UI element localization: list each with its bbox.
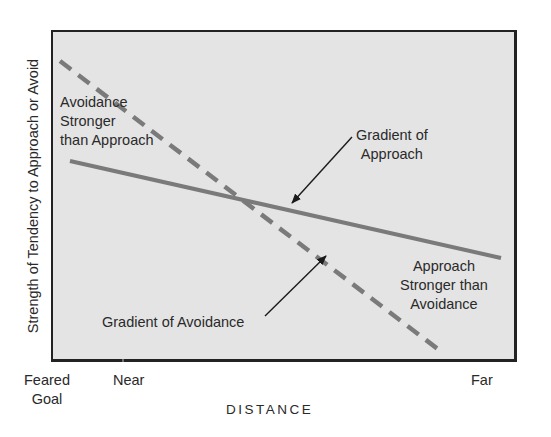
- chart-lines: [0, 0, 551, 437]
- avoidance-pointer-arrow: [265, 256, 326, 316]
- y-axis-label: Strength of Tendency to Approach or Avoi…: [25, 59, 41, 333]
- annotation-avoidance-stronger: Avoidance Stronger than Approach: [60, 93, 154, 150]
- x-axis-title: DISTANCE: [226, 402, 313, 417]
- approach-pointer-arrow: [292, 137, 352, 203]
- x-tick-near: Near: [113, 371, 144, 390]
- gradient-of-approach-line: [70, 161, 501, 258]
- annotation-approach-stronger: Approach Stronger than Avoidance: [400, 257, 488, 314]
- x-tick-far: Far: [471, 371, 493, 390]
- annotation-gradient-of-avoidance: Gradient of Avoidance: [102, 313, 244, 332]
- x-tick-feared-goal: Feared Goal: [24, 371, 70, 409]
- annotation-gradient-of-approach: Gradient of Approach: [356, 126, 428, 164]
